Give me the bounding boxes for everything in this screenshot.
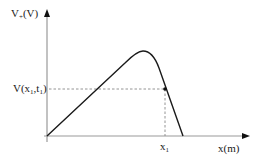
y-axis-label-main: V [11, 7, 19, 19]
marked-point [163, 87, 167, 91]
voltage-curve [47, 51, 183, 136]
position-label-subscript: 1 [166, 146, 170, 154]
point-value-label: V(x1,t1) [13, 83, 47, 96]
point-position-label: x1 [160, 141, 169, 154]
value-label-part: ) [43, 82, 47, 94]
value-label-part: V(x [13, 82, 30, 94]
y-axis-arrow-icon [44, 9, 50, 17]
y-axis-label-unit: (V) [23, 7, 38, 19]
x-axis-arrow-icon [242, 133, 250, 139]
voltage-vs-position-diagram: V+(V) V(x1,t1) x1 x(m) [0, 0, 266, 159]
x-axis-label: x(m) [218, 143, 239, 154]
y-axis-label: V+(V) [11, 8, 38, 21]
plot-canvas [0, 0, 266, 159]
